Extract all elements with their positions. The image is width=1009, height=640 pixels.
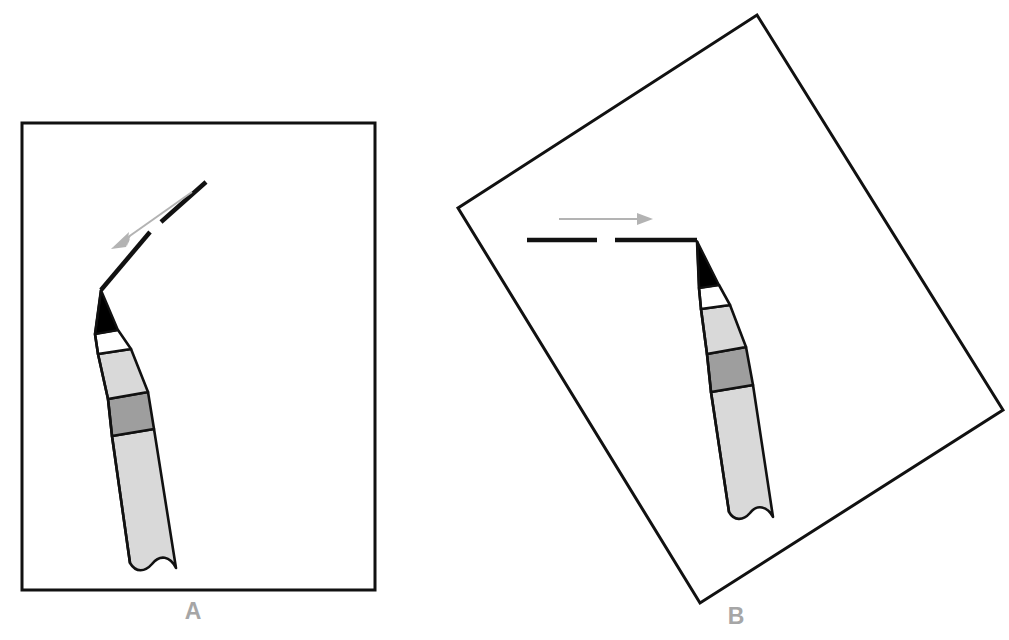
panel-a: A — [22, 123, 375, 624]
panel-label-a: A — [185, 598, 202, 624]
paper-sheet-a — [22, 123, 375, 590]
figure-canvas: A — [0, 0, 1009, 640]
panel-label-b: B — [728, 603, 745, 629]
panel-b: B — [458, 15, 1003, 629]
figure-root: A — [0, 0, 1009, 640]
